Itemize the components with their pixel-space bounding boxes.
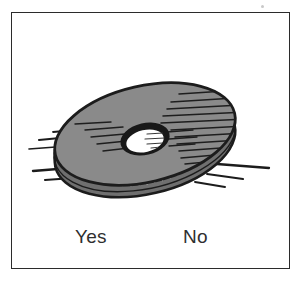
stray-speck-mark [261, 5, 264, 8]
answer-option-no[interactable]: No [183, 227, 208, 246]
question-card: Yes No [0, 0, 301, 283]
answer-options: Yes No [11, 222, 290, 252]
answer-option-yes[interactable]: Yes [75, 227, 107, 246]
